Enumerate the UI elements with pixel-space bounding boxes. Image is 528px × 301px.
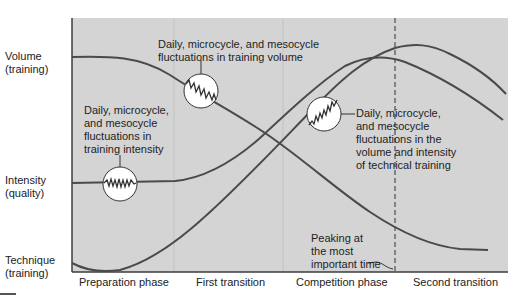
phase-label-competition: Competition phase xyxy=(296,276,388,289)
annotation-line: and mesocycle xyxy=(356,120,456,133)
y-label-intensity: Intensity (quality) xyxy=(5,174,46,200)
phase-label-first-transition: First transition xyxy=(196,276,265,289)
annotation-line: Daily, microcycle, xyxy=(356,107,456,120)
y-label-technique-line2: (training) xyxy=(5,267,55,280)
annotation-technical-fluctuations: Daily, microcycle, and mesocycle fluctua… xyxy=(356,107,456,172)
annotation-line: and mesocycle xyxy=(84,117,169,130)
y-label-volume: Volume (training) xyxy=(5,50,48,76)
y-label-technique-line1: Technique xyxy=(5,254,55,267)
phase-label-preparation: Preparation phase xyxy=(79,276,169,289)
annotation-intensity-fluctuations: Daily, microcycle, and mesocycle fluctua… xyxy=(84,104,169,156)
annotation-line: Daily, microcycle, xyxy=(84,104,169,117)
annotation-volume-fluctuations: Daily, microcycle, and mesocycle fluctua… xyxy=(158,38,319,64)
annotation-peaking: Peaking at the most important time xyxy=(311,232,381,271)
y-label-technique: Technique (training) xyxy=(5,254,55,280)
phase-label-second-transition: Second transition xyxy=(413,276,498,289)
annotation-line: Peaking at xyxy=(311,232,381,245)
y-label-volume-line2: (training) xyxy=(5,63,48,76)
annotation-line: Daily, microcycle, and mesocycle xyxy=(158,38,319,51)
annotation-line: fluctuations in training volume xyxy=(158,51,319,64)
y-label-intensity-line2: (quality) xyxy=(5,187,46,200)
annotation-line: training intensity xyxy=(84,143,169,156)
annotation-line: important time xyxy=(311,258,381,271)
annotation-line: fluctuations in xyxy=(84,130,169,143)
corner-mark xyxy=(0,293,16,295)
annotation-line: of technical training xyxy=(356,159,456,172)
annotation-line: the most xyxy=(311,245,381,258)
y-label-volume-line1: Volume xyxy=(5,50,48,63)
y-label-intensity-line1: Intensity xyxy=(5,174,46,187)
annotation-line: fluctuations in the xyxy=(356,133,456,146)
annotation-line: volume and intensity xyxy=(356,146,456,159)
